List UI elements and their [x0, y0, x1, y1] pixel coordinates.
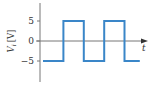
- y-axis-label-text: Vi[V]: [6, 30, 17, 53]
- square-wave-chart: t 50−5 Vi[V]: [0, 0, 155, 89]
- y-axis-label: Vi[V]: [6, 30, 17, 53]
- y-tick-label: 0: [28, 36, 34, 46]
- x-axis-label: t: [142, 43, 146, 53]
- y-tick-label: 5: [28, 16, 34, 26]
- y-tick-label: −5: [21, 56, 35, 66]
- y-ticks: 50−5: [21, 16, 40, 66]
